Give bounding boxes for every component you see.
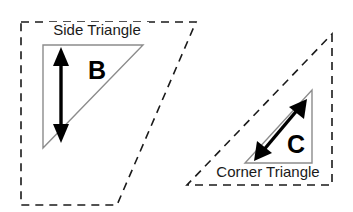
side-triangle-label: Side Triangle (53, 21, 141, 38)
side-arrow-head-down (53, 124, 69, 143)
side-region-outline (21, 22, 196, 205)
diagram-canvas: Side Triangle Corner Triangle B C (0, 0, 353, 212)
corner-triangle-label: Corner Triangle (216, 163, 319, 180)
corner-dimension-letter: C (287, 130, 305, 158)
diagram-svg: Side Triangle Corner Triangle B C (0, 0, 353, 212)
side-dimension-arrow (53, 47, 69, 143)
side-dimension-letter: B (88, 56, 106, 84)
side-arrow-head-up (53, 47, 69, 66)
